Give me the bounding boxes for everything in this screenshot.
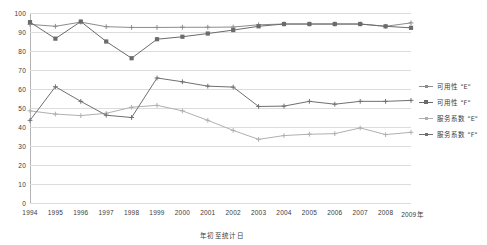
data-point-marker [307,132,312,137]
y-axis-tick-label: 50 [0,105,26,112]
data-point-marker [409,20,414,25]
series-3 [28,103,414,142]
data-point-marker [155,37,159,41]
data-point-marker [332,102,337,107]
x-axis-tick-label: 2002 [226,209,241,216]
data-point-marker [78,99,83,104]
y-axis-tick-label: 100 [0,10,26,17]
series-layer [30,13,411,203]
data-point-marker [333,22,337,26]
data-point-marker [409,130,414,135]
y-axis-tick-label: 30 [0,143,26,150]
data-point-marker [180,108,185,113]
data-point-marker [231,28,235,32]
data-point-marker [104,24,109,29]
legend-item-2[interactable]: 可用性 "F" [419,94,487,110]
data-point-marker [409,26,413,30]
legend-item-label: 服务系数 "E" [437,113,478,123]
data-point-marker [384,24,388,28]
legend-item-3[interactable]: 服务系数 "E" [419,110,487,126]
x-axis-tick-label: 1994 [22,209,37,216]
data-point-marker [307,99,312,104]
data-point-marker [104,39,108,43]
data-point-marker [129,115,134,120]
legend-item-label: 可用性 "F" [437,97,470,107]
x-axis-tick-label: 1996 [73,209,88,216]
y-axis-tick-label: 70 [0,67,26,74]
x-axis-tick-label: 2004 [276,209,291,216]
data-point-marker [28,108,33,113]
data-point-marker [358,126,363,131]
data-point-marker [282,104,287,109]
data-point-marker [180,79,185,84]
data-point-marker [358,99,363,104]
x-axis-tick-label: 2007 [353,209,368,216]
data-point-marker [205,25,210,30]
legend-swatch-icon [419,82,433,91]
x-axis-tick-label: 1998 [124,209,139,216]
data-point-marker [155,76,160,81]
legend-item-label: 服务系数 "F" [437,129,478,139]
data-point-marker [307,22,311,26]
x-axis-tick-label: 2008 [378,209,393,216]
x-axis-tick-label: 2005 [302,209,317,216]
x-axis-tick-label: 2006 [327,209,342,216]
plot-area [30,13,411,203]
legend-item-4[interactable]: 服务系数 "F" [419,126,487,142]
data-point-marker [180,35,184,39]
x-axis-tick-label: 2009年 [401,209,424,219]
y-axis-tick-label: 0 [0,200,26,207]
line-chart: 0102030405060708090100 19941995199619971… [0,0,487,245]
data-point-marker [231,128,236,133]
data-point-marker [383,99,388,104]
series-line [30,105,411,139]
y-axis-tick-label: 10 [0,181,26,188]
data-point-marker [332,131,337,136]
x-axis-tick-label: 1999 [149,209,164,216]
legend-item-1[interactable]: 可用性 "E" [419,78,487,94]
x-axis-tick-label: 2003 [251,209,266,216]
data-point-marker [53,37,57,41]
data-point-marker [205,84,210,89]
data-point-marker [79,19,83,23]
legend-swatch-icon [419,98,433,107]
y-axis-tick-label: 40 [0,124,26,131]
data-point-marker [28,20,32,24]
data-point-marker [53,24,58,29]
chart-caption: 年初至统计日 [0,230,444,240]
chart-legend: 可用性 "E"可用性 "F"服务系数 "E"服务系数 "F" [419,78,487,142]
data-point-marker [129,25,134,30]
data-point-marker [129,105,134,110]
legend-swatch-icon [419,130,433,139]
legend-item-label: 可用性 "E" [437,81,471,91]
x-axis-tick-label: 2001 [200,209,215,216]
data-point-marker [155,25,160,30]
y-axis-tick-label: 20 [0,162,26,169]
data-point-marker [205,118,210,123]
data-point-marker [180,25,185,30]
data-point-marker [206,31,210,35]
data-point-marker [282,22,286,26]
data-point-marker [282,133,287,138]
y-axis-tick-label: 60 [0,86,26,93]
data-point-marker [130,56,134,60]
series-2 [28,19,413,60]
data-point-marker [409,98,414,103]
data-point-marker [383,132,388,137]
gridline [30,203,411,204]
x-axis-tick-label: 1997 [99,209,114,216]
series-line [30,78,411,120]
data-point-marker [257,24,261,28]
data-point-marker [155,103,160,108]
y-axis-tick-label: 90 [0,29,26,36]
data-point-marker [78,113,83,118]
data-point-marker [358,22,362,26]
x-axis-tick-label: 1995 [48,209,63,216]
data-point-marker [256,137,261,142]
legend-swatch-icon [419,114,433,123]
x-axis-unit-label: 年 [417,211,424,218]
y-axis-tick-label: 80 [0,48,26,55]
data-point-marker [53,112,58,117]
x-axis-tick-label: 2000 [175,209,190,216]
